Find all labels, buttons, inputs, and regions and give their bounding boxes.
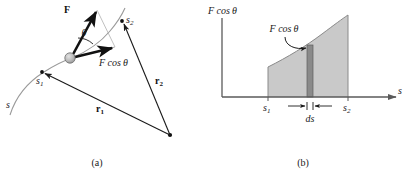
- element-strip-ds: [307, 45, 313, 97]
- label-callout-cos: cos: [278, 23, 291, 34]
- label-y-axis-theta: θ: [232, 5, 237, 16]
- physics-figure: F θ Fcosθ s s1 s2 r1 r2 (a): [0, 0, 408, 181]
- caption-panel-b: (b): [297, 157, 309, 169]
- label-path-s: s: [6, 99, 10, 110]
- label-ds: ds: [306, 113, 315, 124]
- label-force-F: F: [64, 4, 70, 15]
- point-s2-marker: [120, 19, 124, 23]
- label-callout-F: F: [269, 23, 277, 34]
- particle-ball: [65, 53, 75, 63]
- point-s1-marker: [40, 70, 44, 74]
- caption-panel-a: (a): [91, 157, 102, 169]
- label-y-axis-F: F: [207, 5, 215, 16]
- label-callout-theta: θ: [294, 23, 299, 34]
- label-force-component-cos: cos: [108, 57, 121, 68]
- label-angle-theta: θ: [82, 27, 87, 38]
- label-force-component-F: F: [98, 57, 106, 68]
- label-force-component-theta: θ: [123, 57, 128, 68]
- label-callout-f-cos-theta: Fcosθ: [269, 23, 299, 34]
- label-force-component: Fcosθ: [98, 57, 128, 68]
- label-y-axis-cos: cos: [217, 5, 230, 16]
- label-x-axis: s: [398, 85, 402, 96]
- label-y-axis: Fcosθ: [207, 5, 237, 16]
